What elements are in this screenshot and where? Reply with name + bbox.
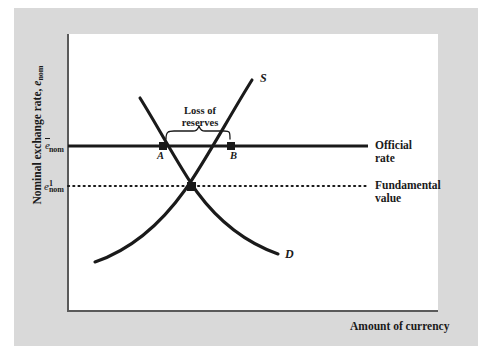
- figure-root: Nominal exchange rate, enom enom e1nom L…: [0, 0, 492, 358]
- loss-of-reserves-line1: Loss of: [163, 105, 237, 117]
- official-rate-label: Official rate: [375, 139, 412, 165]
- y-axis-title-subscript: nom: [36, 65, 45, 80]
- y-tick-official-symbol: e: [45, 139, 50, 151]
- y-axis-title-symbol: e: [31, 81, 43, 86]
- y-axis-title: Nominal exchange rate, enom: [31, 35, 45, 235]
- fundamental-value-label: Fundamental value: [375, 179, 441, 205]
- plot-panel: [67, 34, 438, 312]
- official-rate-line1: Official: [375, 139, 412, 152]
- demand-curve-label: D: [285, 247, 294, 262]
- point-label-b: B: [230, 150, 237, 161]
- x-axis-title: Amount of currency: [350, 320, 449, 332]
- fundamental-value-line1: Fundamental: [375, 179, 441, 192]
- supply-curve-label: S: [260, 71, 267, 86]
- fundamental-value-line2: value: [375, 192, 441, 205]
- point-label-a: A: [157, 150, 164, 161]
- y-tick-official-rate: enom: [28, 139, 64, 154]
- official-rate-line2: rate: [375, 152, 412, 165]
- y-tick-fundamental-subscript: nom: [49, 185, 64, 194]
- y-tick-fundamental-value: e1nom: [24, 180, 64, 194]
- y-tick-official-subscript: nom: [49, 145, 64, 154]
- loss-of-reserves-label: Loss of reserves: [163, 105, 237, 129]
- loss-of-reserves-line2: reserves: [163, 117, 237, 129]
